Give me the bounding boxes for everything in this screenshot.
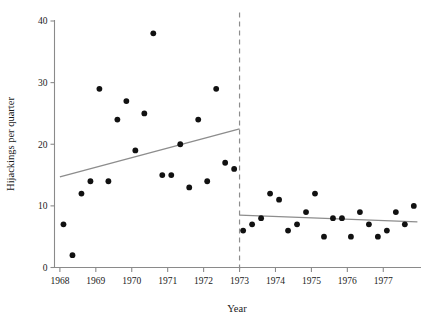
x-tick-label: 1968 — [50, 276, 69, 286]
data-point — [123, 98, 129, 104]
data-point — [258, 215, 264, 221]
data-point — [159, 172, 165, 178]
data-point — [168, 172, 174, 178]
data-point — [303, 209, 309, 215]
data-point — [249, 221, 255, 227]
x-tick-label: 1973 — [230, 276, 249, 286]
data-point — [402, 221, 408, 227]
y-tick-label: 20 — [38, 140, 48, 150]
data-point — [97, 86, 103, 92]
x-axis-title: Year — [227, 303, 247, 314]
y-tick-label: 10 — [38, 201, 48, 211]
data-point — [186, 184, 192, 190]
data-point — [339, 215, 345, 221]
data-point — [330, 215, 336, 221]
data-point — [213, 86, 219, 92]
data-point — [357, 209, 363, 215]
x-tick-label: 1969 — [86, 276, 105, 286]
data-point — [375, 234, 381, 240]
x-tick-label: 1976 — [338, 276, 357, 286]
plot-canvas: 010203040 196819691970197119721973197419… — [0, 0, 425, 322]
data-point — [267, 191, 273, 197]
data-point — [150, 30, 156, 36]
data-point — [384, 228, 390, 234]
data-point — [240, 228, 246, 234]
data-point — [195, 117, 201, 123]
x-tick-label: 1975 — [302, 276, 321, 286]
data-point — [61, 221, 67, 227]
data-point — [141, 111, 147, 117]
data-point — [411, 203, 417, 209]
data-point — [366, 221, 372, 227]
plot-background — [0, 0, 425, 322]
data-point — [231, 166, 237, 172]
data-point — [79, 191, 85, 197]
x-tick-label: 1971 — [158, 276, 177, 286]
data-point — [114, 117, 120, 123]
data-point — [222, 160, 228, 166]
y-tick-label: 40 — [38, 16, 48, 26]
x-tick-label: 1974 — [266, 276, 285, 286]
data-point — [393, 209, 399, 215]
x-tick-label: 1977 — [374, 276, 393, 286]
data-point — [321, 234, 327, 240]
y-tick-label: 0 — [43, 263, 48, 273]
data-point — [106, 178, 112, 184]
hijackings-scatter-figure: 010203040 196819691970197119721973197419… — [0, 0, 425, 322]
x-tick-label: 1970 — [122, 276, 141, 286]
data-point — [70, 252, 76, 258]
data-point — [132, 148, 138, 154]
y-axis-title: Hijackings per quarter — [5, 97, 16, 191]
data-point — [177, 141, 183, 147]
data-point — [88, 178, 94, 184]
data-point — [204, 178, 210, 184]
x-tick-label: 1972 — [194, 276, 213, 286]
data-point — [348, 234, 354, 240]
data-point — [285, 228, 291, 234]
data-point — [294, 221, 300, 227]
data-point — [276, 197, 282, 203]
data-point — [312, 191, 318, 197]
y-tick-label: 30 — [38, 78, 48, 88]
